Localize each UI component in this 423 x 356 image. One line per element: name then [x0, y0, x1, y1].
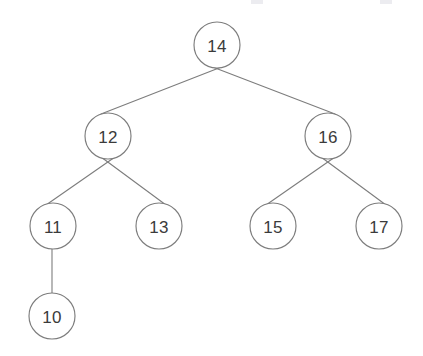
- scan-artifact-layer: [251, 0, 392, 4]
- tree-edge-n14-to-n12: [101, 66, 224, 114]
- node-label-17: 17: [369, 218, 388, 237]
- tree-edge-n16-to-n17: [321, 157, 386, 205]
- node-label-12: 12: [98, 128, 117, 147]
- tree-node-17[interactable]: 17: [356, 203, 402, 249]
- binary-search-tree-figure: 1412161113151710: [0, 0, 423, 356]
- tree-node-14[interactable]: 14: [194, 22, 240, 68]
- tree-edge-layer: [46, 66, 386, 293]
- tree-node-13[interactable]: 13: [136, 203, 182, 249]
- tree-node-11[interactable]: 11: [30, 203, 76, 249]
- tree-edge-n16-to-n15: [266, 157, 335, 205]
- tree-node-16[interactable]: 16: [305, 113, 351, 159]
- node-label-15: 15: [263, 218, 282, 237]
- scan-artifact: [380, 0, 392, 4]
- node-label-14: 14: [207, 37, 226, 56]
- tree-node-15[interactable]: 15: [250, 203, 296, 249]
- scan-artifact: [251, 0, 263, 4]
- tree-node-10[interactable]: 10: [29, 293, 75, 339]
- tree-diagram-canvas: 1412161113151710: [0, 0, 423, 356]
- tree-node-12[interactable]: 12: [85, 113, 131, 159]
- node-label-10: 10: [42, 308, 61, 327]
- node-label-16: 16: [318, 128, 337, 147]
- node-label-13: 13: [149, 218, 168, 237]
- node-label-11: 11: [44, 218, 62, 237]
- tree-edge-n14-to-n16: [210, 66, 335, 114]
- tree-edge-n12-to-n11: [46, 157, 115, 205]
- tree-edge-n12-to-n13: [101, 157, 166, 205]
